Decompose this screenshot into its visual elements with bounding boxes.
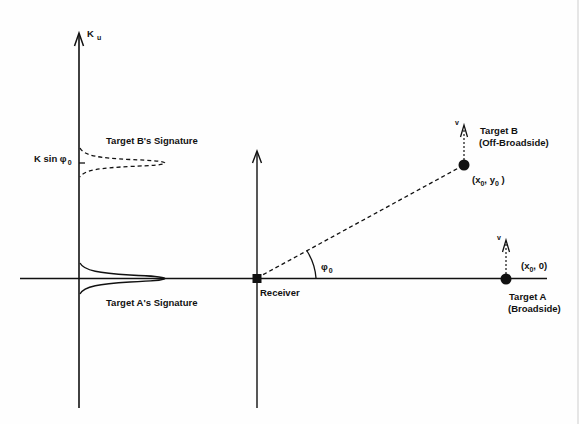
radar-geometry-diagram: Ku K sin φ0 Target B's Signature Target … (0, 0, 579, 424)
target-b-velocity-label: v (455, 119, 459, 126)
target-a-velocity-label: v (497, 234, 501, 241)
target-a-signature-label: Target A's Signature (106, 297, 197, 308)
target-a-marker-icon (501, 274, 512, 285)
target-b-marker-icon (459, 160, 470, 171)
target-b-signature-curve (80, 148, 165, 177)
target-a-coordinates: (x0, 0) (521, 260, 547, 273)
line-of-sight-to-target-b (257, 165, 464, 278)
target-b-signature-label: Target B's Signature (106, 135, 198, 146)
diagram-canvas: Ku K sin φ0 Target B's Signature Target … (0, 0, 579, 424)
target-a-name: Target A (509, 291, 547, 302)
receiver-label: Receiver (260, 287, 300, 298)
target-b-name: Target B (480, 125, 518, 136)
target-a-description: (Broadside) (508, 303, 561, 314)
target-b-coordinates: (x0, y0 ) (472, 174, 505, 187)
ku-axis-label: Ku (87, 28, 101, 41)
receiver-marker-icon (253, 274, 262, 283)
angle-arc (307, 251, 316, 278)
ksin-tick-label: K sin φ0 (34, 153, 72, 166)
target-b-description: (Off-Broadside) (479, 137, 549, 148)
angle-label: φ0 (321, 261, 333, 274)
